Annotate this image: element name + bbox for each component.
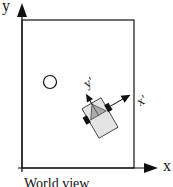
y-axis-arrowhead-icon xyxy=(17,3,27,17)
diagram-caption: World view xyxy=(24,177,89,187)
x-axis-arrowhead-icon xyxy=(144,163,158,173)
x-axis-label: x xyxy=(163,158,171,174)
robot xyxy=(73,75,141,140)
y-axis-label: y xyxy=(2,0,10,14)
world-boundary xyxy=(22,20,134,168)
robot-x-axis xyxy=(110,99,123,107)
obstacle-circle xyxy=(44,76,57,89)
world-view-diagram xyxy=(0,0,173,187)
robot-x-arrowhead-icon xyxy=(121,91,133,102)
robot-y-arrowhead-icon xyxy=(83,92,93,102)
